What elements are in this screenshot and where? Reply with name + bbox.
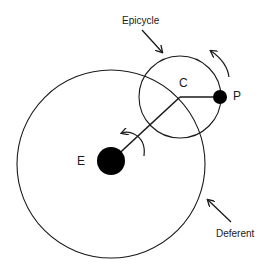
deferent-label: Deferent xyxy=(216,228,255,239)
earth-label: E xyxy=(77,154,85,168)
epicycle-pointer-arrow-icon xyxy=(142,30,162,52)
planet-dot xyxy=(213,90,227,104)
center-label: C xyxy=(179,76,188,90)
deferent-rotation-arrow-icon xyxy=(122,132,144,156)
planet-label: P xyxy=(233,89,241,103)
epicycle-diagram: Epicycle Deferent E C P xyxy=(0,0,268,277)
earth-dot xyxy=(97,147,125,175)
radius-line-earth-to-center xyxy=(111,97,180,161)
epicycle-label: Epicycle xyxy=(122,15,160,26)
deferent-pointer-arrow-icon xyxy=(208,200,231,222)
